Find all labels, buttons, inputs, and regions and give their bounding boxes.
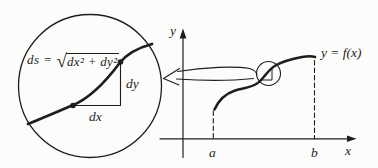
arc-length-figure: ds = √ dx² + dy² dx dy y x a b y = f(x) <box>0 0 378 168</box>
interval-b-label: b <box>311 146 318 160</box>
ds-formula: ds = √ dx² + dy² <box>27 53 119 68</box>
figure-linework <box>0 0 378 168</box>
curve-equation-label: y = f(x) <box>321 46 362 60</box>
magnify-arrow-lower-line <box>177 79 254 81</box>
ds-formula-lhs: ds = <box>27 53 53 66</box>
x-axis-arrowhead <box>347 136 357 143</box>
dy-label: dy <box>126 77 139 91</box>
interval-a-label: a <box>209 146 216 160</box>
dx-label: dx <box>89 110 102 124</box>
point-marker-lower <box>70 103 76 109</box>
dx-dy-right-triangle <box>73 62 121 106</box>
ds-formula-radicand: dx² + dy² <box>66 53 119 68</box>
x-axis-label: x <box>345 144 351 158</box>
magnify-arrow-upper-line <box>178 67 258 74</box>
magnify-arrow-head <box>164 69 180 86</box>
function-curve <box>215 56 316 109</box>
y-axis-arrowhead <box>180 29 187 39</box>
zoom-circle <box>257 62 281 86</box>
magnifier-circle <box>19 15 162 158</box>
y-axis-label: y <box>170 24 176 38</box>
radical-sign: √ <box>57 54 67 68</box>
